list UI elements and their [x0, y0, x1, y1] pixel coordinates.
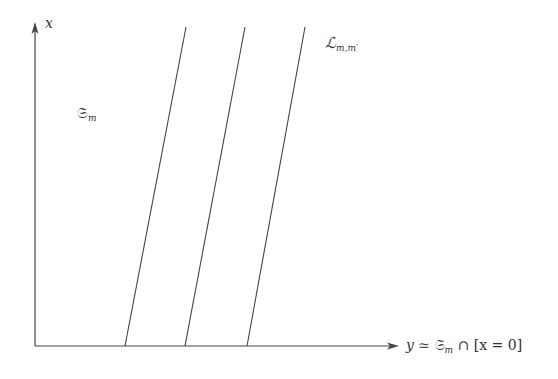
horizontal-axis-label-rel: ≃: [414, 337, 435, 353]
lines-label-main: ℒ: [325, 34, 336, 52]
diagram-canvas: [0, 0, 558, 379]
line-3: [247, 27, 305, 346]
horizontal-axis-label: y ≃ 𝔖m ∩ [x = 0]: [406, 338, 522, 355]
line-2: [185, 27, 245, 346]
region-label-main: 𝔖: [77, 104, 88, 122]
region-label-sub: m: [88, 113, 97, 123]
horizontal-axis-label-rest: ∩ [x = 0]: [453, 337, 522, 353]
vertical-axis-label: x: [45, 16, 53, 30]
lines-label-sub: m,m′: [336, 43, 358, 53]
horizontal-axis-label-set: 𝔖: [435, 337, 445, 353]
region-label: 𝔖m: [77, 106, 97, 123]
lines-label: ℒm,m′: [325, 36, 358, 53]
family-of-lines: [125, 27, 305, 346]
horizontal-axis-label-set-sub: m: [445, 345, 454, 355]
line-1: [125, 27, 186, 346]
horizontal-axis-label-var: y: [406, 337, 414, 353]
